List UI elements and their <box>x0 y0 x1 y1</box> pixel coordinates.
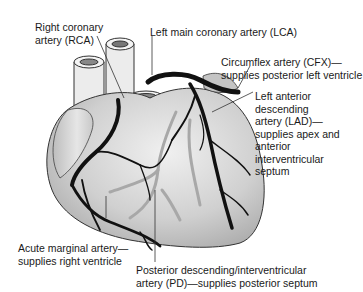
label-acute-marginal: Acute marginal artery— supplies right ve… <box>18 242 128 267</box>
label-lca-line1: Left main coronary artery (LCA) <box>150 26 297 39</box>
label-acute-marginal-line2: supplies right ventricle <box>18 255 128 268</box>
label-rca: Right coronary artery (RCA) <box>35 21 103 46</box>
label-lad-line7: septum <box>255 165 340 178</box>
label-rca-line2: artery (RCA) <box>35 34 103 47</box>
label-lca: Left main coronary artery (LCA) <box>150 26 297 39</box>
label-acute-marginal-line1: Acute marginal artery— <box>18 242 128 255</box>
label-pd-line1: Posterior descending/interventricular <box>136 264 317 277</box>
label-lad-line4: supplies apex and <box>255 128 340 141</box>
label-cfx-line2: supplies posterior left ventricle <box>221 69 362 82</box>
label-lad-line1: Left anterior <box>255 90 340 103</box>
label-pd-line2: artery (PD)—supplies posterior septum <box>136 277 317 290</box>
label-rca-line1: Right coronary <box>35 21 103 34</box>
label-lad-line3: artery (LAD)— <box>255 115 340 128</box>
label-lad-line2: descending <box>255 103 340 116</box>
label-cfx: Circumflex artery (CFX)— supplies poster… <box>221 56 362 81</box>
label-cfx-line1: Circumflex artery (CFX)— <box>221 56 362 69</box>
label-lad-line6: interventricular <box>255 153 340 166</box>
label-lad-line5: anterior <box>255 140 340 153</box>
label-lad: Left anterior descending artery (LAD)— s… <box>255 90 340 178</box>
label-pd: Posterior descending/interventricular ar… <box>136 264 317 289</box>
